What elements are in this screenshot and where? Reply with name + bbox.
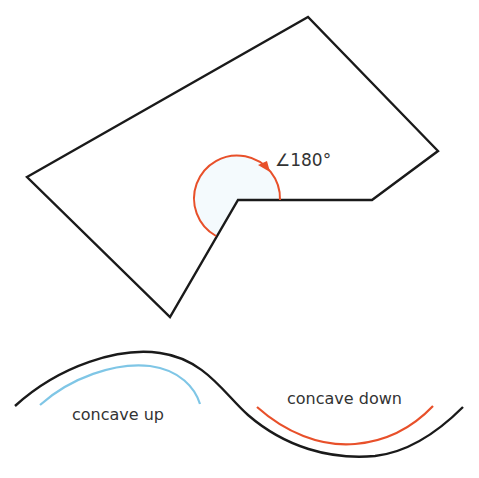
concave-up-label: concave up bbox=[72, 405, 164, 424]
concave-down-label: concave down bbox=[287, 389, 402, 408]
angle-label: ∠180° bbox=[275, 150, 331, 170]
